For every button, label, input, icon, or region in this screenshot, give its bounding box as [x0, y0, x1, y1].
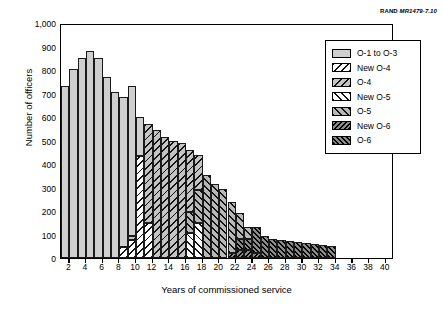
legend-item-new_o6[interactable]: New O-6 [332, 119, 415, 134]
legend-label-o6: O-6 [357, 136, 371, 145]
bar-segment-o4 [169, 141, 177, 259]
legend-swatch-o6 [332, 136, 351, 145]
bar-segment-o6 [286, 241, 294, 258]
legend-label-o4: O-4 [357, 78, 371, 87]
bar-segment-o1_to_o3 [61, 86, 69, 258]
y-axis-tick-labels: 01002003004005006007008009001,000 [0, 24, 56, 259]
x-tick-label-34: 34 [330, 262, 339, 272]
bar-segment-o4 [194, 155, 202, 190]
bar-segment-new_o5 [194, 223, 202, 258]
bar-segment-o1_to_o3 [119, 97, 127, 247]
bar-segment-o1_to_o3 [103, 77, 111, 258]
legend-swatch-new_o5 [332, 92, 351, 101]
bar-year-31 [311, 244, 319, 258]
bar-year-32 [319, 245, 327, 258]
legend-item-o5[interactable]: O-5 [332, 104, 415, 119]
bar-segment-new_o6 [244, 250, 252, 258]
bar-year-1 [61, 86, 69, 258]
legend-swatch-new_o4 [332, 63, 351, 72]
bar-year-21 [228, 202, 236, 258]
legend-item-o4[interactable]: O-4 [332, 75, 415, 90]
bar-year-5 [94, 58, 102, 258]
bar-year-8 [119, 97, 127, 258]
bar-year-25 [261, 236, 269, 258]
y-tick-label-1000: 1,000 [35, 19, 56, 29]
bar-year-13 [161, 137, 169, 258]
bar-segment-new_o4 [144, 223, 152, 258]
bar-year-12 [153, 130, 161, 258]
x-tick-label-26: 26 [263, 262, 272, 272]
x-tick-label-40: 40 [380, 262, 389, 272]
bar-segment-o5 [211, 184, 219, 258]
legend-swatch-o4 [332, 78, 351, 87]
bar-year-16 [186, 150, 194, 258]
bar-segment-new_o6 [236, 250, 244, 258]
bar-segment-o6 [244, 239, 252, 250]
legend-item-o1_to_o3[interactable]: O-1 to O-3 [332, 46, 415, 61]
x-tick-label-12: 12 [147, 262, 156, 272]
bar-segment-o1_to_o3 [111, 92, 119, 258]
x-tick-label-4: 4 [83, 262, 88, 272]
bar-segment-o6 [261, 236, 269, 258]
bar-segment-o6 [269, 239, 277, 258]
x-tick-label-22: 22 [230, 262, 239, 272]
bar-segment-o4 [186, 150, 194, 212]
bar-segment-new_o4 [119, 247, 127, 258]
legend-label-o1_to_o3: O-1 to O-3 [357, 49, 397, 58]
bar-segment-new_o6 [252, 253, 260, 258]
bar-year-30 [302, 243, 310, 258]
bar-year-24 [252, 227, 260, 258]
y-tick-label-200: 200 [42, 207, 56, 217]
bar-segment-o5 [194, 190, 202, 223]
bar-segment-o4 [128, 236, 136, 241]
bar-year-22 [236, 213, 244, 258]
bar-year-14 [169, 141, 177, 259]
legend-label-new_o6: New O-6 [357, 122, 391, 131]
y-tick-label-600: 600 [42, 113, 56, 123]
bar-year-27 [277, 240, 285, 258]
bar-year-7 [111, 92, 119, 258]
bar-year-19 [211, 184, 219, 258]
bar-year-3 [78, 58, 86, 258]
bar-segment-o1_to_o3 [128, 86, 136, 235]
bar-segment-o6 [327, 246, 335, 258]
legend-item-o6[interactable]: O-6 [332, 133, 415, 148]
bar-year-4 [86, 51, 94, 258]
bar-segment-o6 [236, 239, 244, 250]
legend-swatch-o1_to_o3 [332, 49, 351, 58]
legend-item-new_o4[interactable]: New O-4 [332, 61, 415, 76]
chart-legend: O-1 to O-3New O-4O-4New O-5O-5New O-6O-6 [325, 40, 421, 154]
legend-item-new_o5[interactable]: New O-5 [332, 90, 415, 105]
bar-year-29 [294, 242, 302, 258]
bar-segment-o6 [302, 243, 310, 258]
bar-segment-o6 [311, 244, 319, 258]
legend-label-new_o4: New O-4 [357, 64, 391, 73]
bar-segment-o5 [244, 227, 252, 239]
bar-year-10 [136, 117, 144, 258]
x-tick-label-2: 2 [66, 262, 71, 272]
y-tick-label-300: 300 [42, 184, 56, 194]
y-tick-label-700: 700 [42, 90, 56, 100]
bar-segment-new_o4 [136, 156, 144, 258]
bar-year-28 [286, 241, 294, 258]
bar-year-26 [269, 239, 277, 258]
bar-year-18 [203, 175, 211, 258]
x-tick-label-16: 16 [180, 262, 189, 272]
bar-segment-new_o4 [128, 240, 136, 258]
bar-segment-o1_to_o3 [136, 117, 144, 156]
bar-segment-o4 [178, 143, 186, 258]
rand-report-id: MR1479-7.10 [400, 8, 437, 14]
bar-segment-o6 [294, 242, 302, 258]
bar-year-15 [178, 143, 186, 258]
x-tick-label-38: 38 [363, 262, 372, 272]
bar-segment-new_o6 [228, 253, 236, 258]
rand-org-label: RAND [380, 8, 398, 14]
bar-segment-o1_to_o3 [78, 58, 86, 258]
bar-segment-o5 [186, 212, 194, 233]
bar-year-17 [194, 155, 202, 258]
bar-segment-o4 [153, 130, 161, 258]
legend-label-o5: O-5 [357, 107, 371, 116]
legend-label-new_o5: New O-5 [357, 93, 391, 102]
x-axis-tick-labels: 246810121416182022242628303234363840 [60, 262, 393, 276]
bar-segment-o5 [228, 202, 236, 254]
